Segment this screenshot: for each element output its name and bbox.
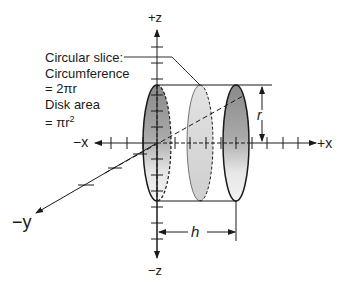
neg-y-label: −y [12,212,32,232]
y-axis [36,143,157,213]
height-label: h [191,224,199,239]
neg-z-label: −z [148,263,162,278]
neg-x-label: −x [73,135,88,150]
pos-x-label: +x [317,136,332,151]
callout-title: Circular slice: [45,50,130,66]
callout-area-formula: = πr2 [45,112,130,131]
pos-z-label: +z [148,10,162,25]
x-axis [95,137,316,149]
callout-leader-line [124,57,200,85]
callout-circumference-formula: = 2πr [45,81,130,97]
callout-area-label: Disk area [45,97,130,113]
callout-circumference-label: Circumference [45,66,130,82]
radius-label: r [257,108,262,123]
cylinder-diagram [0,0,354,291]
circular-slice-callout: Circular slice: Circumference = 2πr Disk… [45,50,130,131]
